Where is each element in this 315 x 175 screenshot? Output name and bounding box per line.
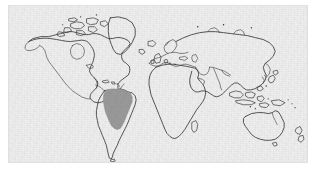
map-canvas <box>9 6 307 162</box>
landmass-greenland <box>108 17 145 55</box>
landmass-africa <box>149 64 206 138</box>
landmass-british-isles <box>148 41 161 64</box>
world-map-figure <box>0 0 315 175</box>
landmass-madagascar <box>192 121 198 133</box>
landmass-asia <box>176 24 278 97</box>
landmass-arctic-islands <box>57 14 109 36</box>
landmass-australia <box>243 111 284 147</box>
map-panel <box>8 5 308 163</box>
landmass-indonesia <box>230 86 296 109</box>
landmass-japan <box>266 70 279 86</box>
landmass-new-zealand <box>295 126 304 142</box>
